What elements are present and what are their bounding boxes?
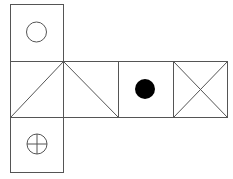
- diagonal-line: [11, 62, 64, 118]
- circle-outline-icon: [27, 22, 47, 42]
- cube-net-diagram: [0, 0, 233, 179]
- face-top: [11, 5, 64, 62]
- filled-dot-icon: [135, 79, 155, 99]
- diagonal-line: [64, 62, 119, 118]
